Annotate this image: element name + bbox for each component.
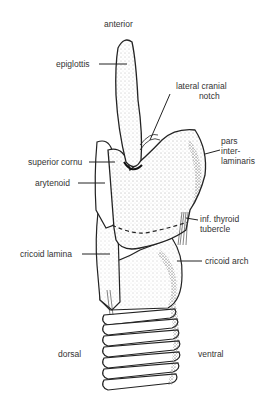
label-line: inter- bbox=[221, 146, 255, 156]
leader-pars-interlaminaris bbox=[205, 150, 220, 154]
label-line: inf. thyroid bbox=[200, 214, 239, 224]
label-line: tubercle bbox=[200, 224, 239, 234]
label-pars-interlaminaris: pars inter- laminaris bbox=[221, 136, 255, 166]
label-superior-cornu: superior cornu bbox=[28, 157, 82, 167]
label-ventral: ventral bbox=[198, 349, 224, 359]
label-line: lateral cranial bbox=[176, 81, 227, 91]
label-dorsal: dorsal bbox=[58, 349, 81, 359]
label-arytenoid: arytenoid bbox=[35, 178, 70, 188]
label-cricoid-arch: cricoid arch bbox=[205, 256, 248, 266]
leader-lateral-cranial-notch bbox=[150, 94, 170, 140]
label-lateral-cranial-notch: lateral cranial notch bbox=[176, 81, 227, 101]
label-cricoid-lamina: cricoid lamina bbox=[20, 249, 72, 259]
label-inf-thyroid-tubercle: inf. thyroid tubercle bbox=[200, 214, 239, 234]
label-line: laminaris bbox=[221, 156, 255, 166]
label-line: pars bbox=[221, 136, 255, 146]
label-line: notch bbox=[176, 91, 227, 101]
tracheal-rings bbox=[103, 309, 180, 390]
larynx-illustration bbox=[0, 0, 271, 402]
label-anterior: anterior bbox=[104, 19, 133, 29]
label-epiglottis: epiglottis bbox=[56, 59, 90, 69]
